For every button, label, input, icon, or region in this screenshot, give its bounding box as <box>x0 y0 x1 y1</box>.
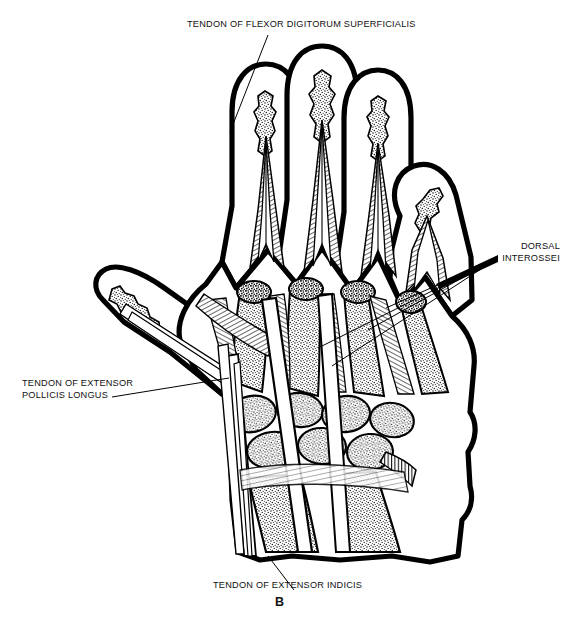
label-dorsal-interossei-line1: DORSAL <box>440 241 560 253</box>
label-tendon-flexor-digitorum-superficialis: TENDON OF FLEXOR DIGITORUM SUPERFICIALIS <box>187 19 416 31</box>
label-tendon-extensor-pollicis-longus: TENDON OF EXTENSOR POLLICIS LONGUS <box>22 378 182 401</box>
label-extensor-pollicis-longus-line1: TENDON OF EXTENSOR <box>22 378 182 390</box>
panel-letter: B <box>275 597 284 609</box>
label-dorsal-interossei: DORSAL INTEROSSEI <box>440 241 560 264</box>
label-extensor-pollicis-longus-line2: POLLICIS LONGUS <box>22 390 182 402</box>
anatomical-figure-panel: TENDON OF FLEXOR DIGITORUM SUPERFICIALIS… <box>0 0 574 632</box>
hand-dissection-illustration <box>0 0 574 632</box>
label-dorsal-interossei-line2: INTEROSSEI <box>440 253 560 265</box>
label-tendon-extensor-indicis: TENDON OF EXTENSOR INDICIS <box>213 580 362 592</box>
hand-outline-group <box>96 35 498 590</box>
